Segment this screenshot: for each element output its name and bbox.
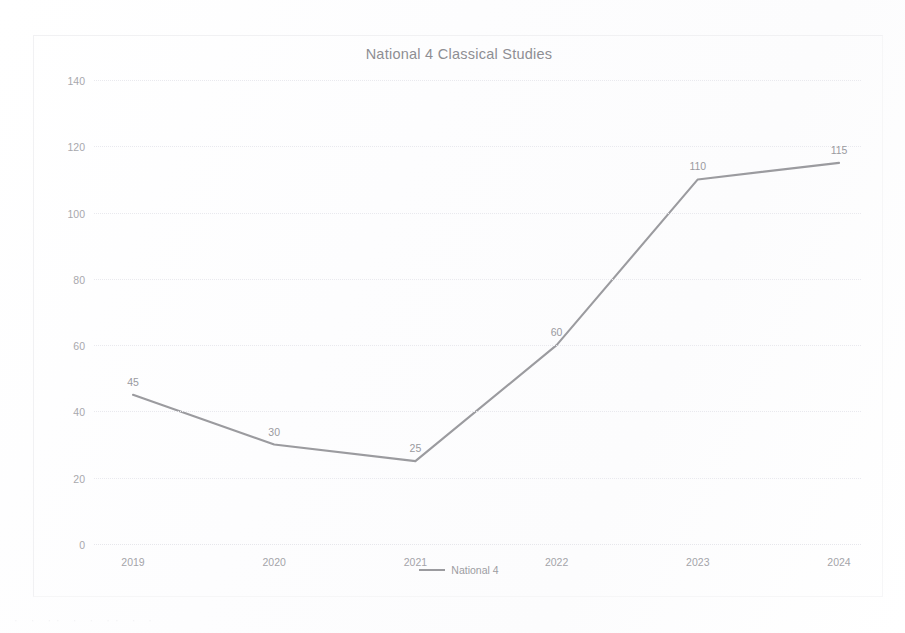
gridline: 0	[94, 544, 861, 545]
y-axis-tick-label: 140	[67, 75, 85, 87]
y-axis-tick-label: 40	[73, 406, 85, 418]
series-line-national-4	[94, 80, 894, 544]
y-axis-tick-label: 120	[67, 141, 85, 153]
y-axis-tick-label: 60	[73, 340, 85, 352]
gridline: 20	[94, 478, 861, 479]
y-axis-tick-label: 80	[73, 274, 85, 286]
gridline: 140	[94, 80, 861, 81]
chart-container: National 4 Classical Studies 02040608010…	[33, 35, 883, 597]
chart-title: National 4 Classical Studies	[34, 46, 884, 62]
gridline: 80	[94, 279, 861, 280]
y-axis-tick-label: 100	[67, 208, 85, 220]
legend-item-label: National 4	[451, 564, 498, 576]
plot-area: 0204060801001201402019202020212022202320…	[94, 80, 894, 544]
data-line	[133, 163, 839, 461]
gridline: 100	[94, 213, 861, 214]
gridline: 120	[94, 146, 861, 147]
chart-legend: National 4	[34, 564, 884, 576]
gridline: 40	[94, 411, 861, 412]
y-axis-tick-label: 20	[73, 473, 85, 485]
legend-line-swatch	[419, 569, 445, 571]
gridline: 60	[94, 345, 861, 346]
y-axis-tick-label: 0	[79, 539, 85, 551]
scan-artifact-text: · · ·· · · ·· · ·	[14, 614, 534, 626]
